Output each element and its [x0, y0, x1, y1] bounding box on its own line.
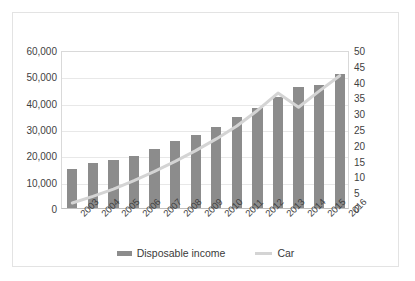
y-axis-right-tick: 50 [354, 46, 365, 57]
y-axis-left: 010,00020,00030,00040,00050,00060,000 [13, 51, 57, 209]
chart-legend: Disposable incomeCar [13, 245, 398, 261]
x-axis-tick-2004: 2004 [99, 211, 107, 219]
y-axis-right-tick: 30 [354, 109, 365, 120]
car-line-path-svg [62, 52, 350, 210]
x-axis-tick-2013: 2013 [284, 211, 292, 219]
x-axis-tick-2007: 2007 [161, 211, 169, 219]
line-series-car [62, 52, 348, 208]
x-axis-tick-2016: 2016 [346, 211, 354, 219]
legend-item-disposable-income[interactable]: Disposable income [117, 247, 226, 259]
legend-bar-swatch-icon [117, 251, 132, 256]
y-axis-left-tick: 10,000 [26, 177, 57, 188]
legend-item-car[interactable]: Car [255, 247, 294, 259]
y-axis-left-tick: 30,000 [26, 125, 57, 136]
y-axis-right: 05101520253035404550 [354, 51, 394, 209]
x-axis-tick-2014: 2014 [305, 211, 313, 219]
y-axis-left-tick: 50,000 [26, 72, 57, 83]
x-axis-tick-2012: 2012 [263, 211, 271, 219]
x-axis-tick-2010: 2010 [222, 211, 230, 219]
legend-line-swatch-icon [255, 252, 272, 255]
plot-area [61, 51, 349, 209]
y-axis-left-tick: 40,000 [26, 98, 57, 109]
x-axis-tick-2009: 2009 [202, 211, 210, 219]
x-axis-tick-2015: 2015 [325, 211, 333, 219]
x-axis-tick-2003: 2003 [78, 211, 86, 219]
y-axis-right-tick: 15 [354, 156, 365, 167]
legend-label: Car [277, 247, 294, 259]
y-axis-right-tick: 10 [354, 172, 365, 183]
chart-container: 010,00020,00030,00040,00050,00060,000 05… [12, 12, 399, 267]
y-axis-right-tick: 25 [354, 125, 365, 136]
y-axis-right-tick: 20 [354, 140, 365, 151]
y-axis-left-tick: 60,000 [26, 46, 57, 57]
y-axis-right-tick: 45 [354, 61, 365, 72]
x-axis-tick-2008: 2008 [181, 211, 189, 219]
y-axis-right-tick: 40 [354, 77, 365, 88]
y-axis-left-tick: 0 [51, 204, 57, 215]
x-axis-tick-2011: 2011 [243, 211, 251, 219]
x-axis-tick-2005: 2005 [119, 211, 127, 219]
y-axis-left-tick: 20,000 [26, 151, 57, 162]
x-axis-tick-2006: 2006 [140, 211, 148, 219]
car-line-path [72, 76, 339, 203]
legend-label: Disposable income [137, 247, 226, 259]
y-axis-right-tick: 35 [354, 93, 365, 104]
